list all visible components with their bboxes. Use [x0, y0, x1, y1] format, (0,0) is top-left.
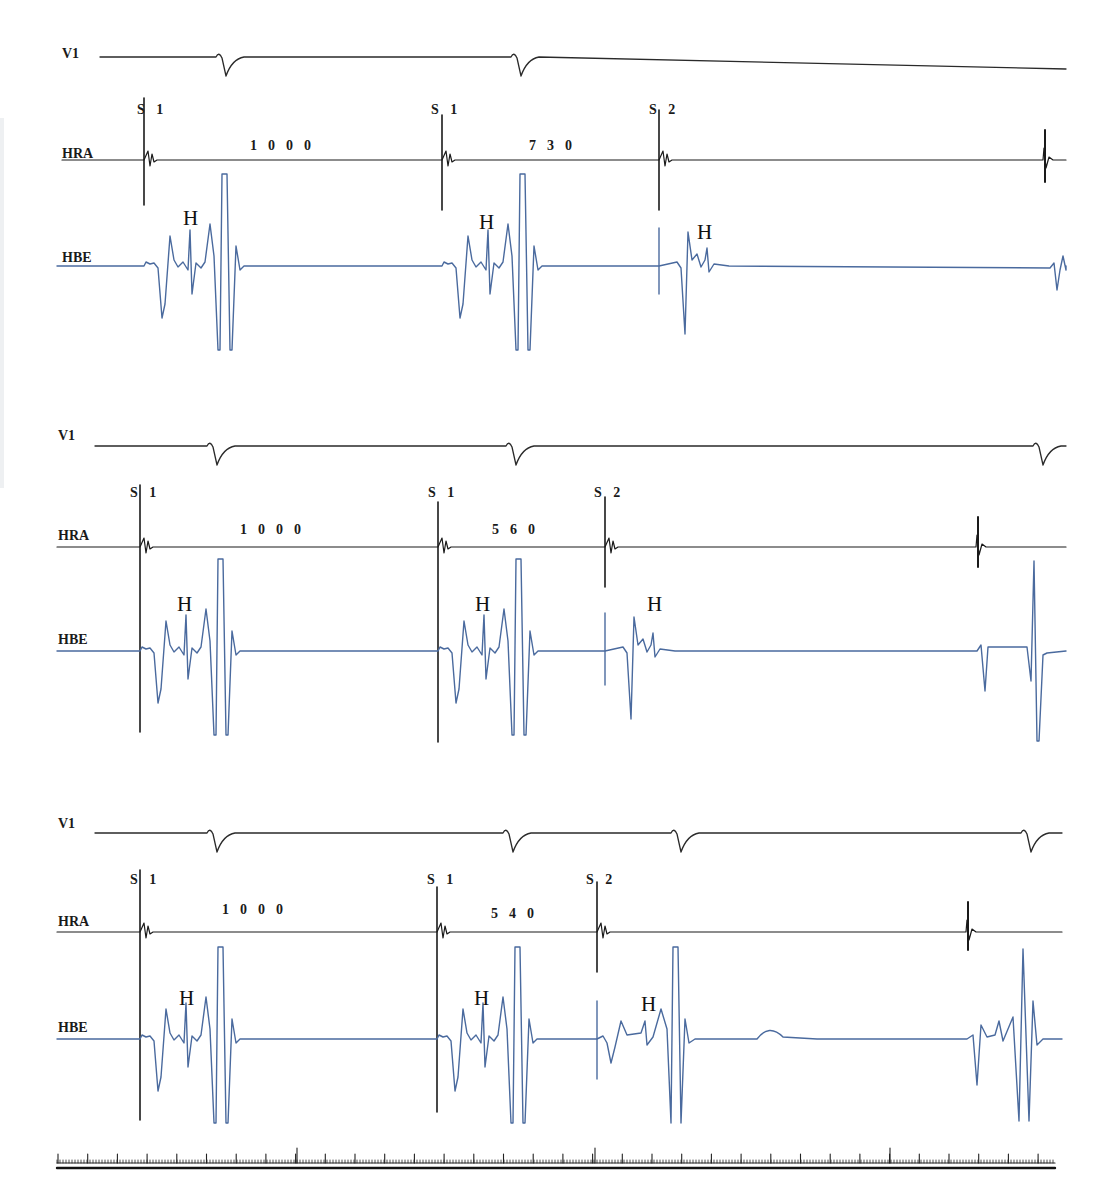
stim-label-s1: S 1: [137, 102, 163, 118]
hra-trace: [57, 920, 1062, 940]
his-marker: H: [475, 592, 490, 617]
lead-label-v1: V1: [58, 428, 75, 444]
lead-label-v1: V1: [62, 46, 79, 62]
his-marker: H: [479, 210, 494, 235]
v1-trace: [100, 54, 1066, 76]
v1-trace: [95, 830, 1062, 852]
hra-trace: [57, 535, 1066, 555]
lead-label-hra: HRA: [62, 146, 93, 162]
his-marker: H: [647, 592, 662, 617]
stim-label-s1: S 1: [428, 485, 454, 501]
his-marker: H: [179, 986, 194, 1011]
his-marker: H: [474, 986, 489, 1011]
interval-label: 1000: [222, 902, 294, 918]
lead-label-hbe: HBE: [58, 632, 88, 648]
stim-label-s1: S 1: [130, 485, 156, 501]
v1-trace: [95, 443, 1066, 465]
his-marker: H: [183, 206, 198, 231]
stim-label-s2: S 2: [649, 102, 675, 118]
interval-label: 560: [492, 522, 546, 538]
stim-label-s1: S 1: [431, 102, 457, 118]
interval-label: 1000: [240, 522, 312, 538]
interval-label: 1000: [250, 138, 322, 154]
lead-label-v1: V1: [58, 816, 75, 832]
his-marker: H: [641, 992, 656, 1017]
figure-caption-truncated: [120, 1192, 1080, 1198]
lead-label-hbe: HBE: [62, 250, 92, 266]
lead-label-hra: HRA: [58, 914, 89, 930]
stim-label-s2: S 2: [586, 872, 612, 888]
stim-label-s2: S 2: [594, 485, 620, 501]
trace-canvas: [0, 0, 1104, 1198]
his-marker: H: [177, 592, 192, 617]
his-marker: H: [697, 220, 712, 245]
hbe-trace: [57, 174, 1066, 350]
stim-label-s1: S 1: [130, 872, 156, 888]
hbe-trace: [57, 947, 1062, 1123]
lead-label-hbe: HBE: [58, 1020, 88, 1036]
electrogram-figure: V1 HRA HBE S 1 S 1 S 2 1000 730 H H H V1…: [0, 0, 1104, 1198]
lead-label-hra: HRA: [58, 528, 89, 544]
interval-label: 730: [529, 138, 583, 154]
hbe-trace: [57, 559, 1066, 741]
interval-label: 540: [491, 906, 545, 922]
stim-label-s1: S 1: [427, 872, 453, 888]
